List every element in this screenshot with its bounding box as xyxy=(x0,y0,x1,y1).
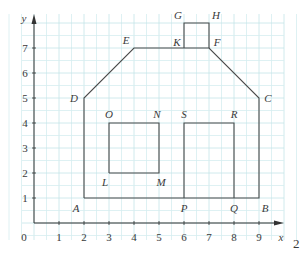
y-tick-label: 5 xyxy=(22,92,28,104)
x-axis-arrow-icon xyxy=(274,221,284,226)
y-tick-label: 2 xyxy=(22,167,28,179)
point-label-o: O xyxy=(105,108,113,120)
origin-label: 0 xyxy=(21,231,27,243)
y-tick-label: 3 xyxy=(22,142,28,154)
y-axis-label: y xyxy=(21,12,27,24)
point-labels: ABCDEFGHKLMNOPQRS xyxy=(69,9,272,214)
x-tick-label: 1 xyxy=(56,231,62,243)
point-label-n: N xyxy=(152,108,161,120)
point-label-c: C xyxy=(264,92,272,104)
y-tick-label: 6 xyxy=(22,67,28,79)
point-label-q: Q xyxy=(230,202,238,214)
x-tick-label: 7 xyxy=(206,231,212,243)
point-label-f: F xyxy=(213,36,221,48)
point-label-h: H xyxy=(211,9,221,21)
point-label-d: D xyxy=(69,92,78,104)
x-axis-label: x xyxy=(278,231,284,243)
x-tick-label: 5 xyxy=(156,231,162,243)
y-tick-label: 7 xyxy=(22,42,28,54)
x-tick-label: 3 xyxy=(106,231,112,243)
axes: 12345678912345670xy xyxy=(21,12,284,243)
x-tick-label: 6 xyxy=(181,231,187,243)
y-axis-arrow-icon xyxy=(32,14,37,24)
page-number: 2 xyxy=(293,236,300,252)
point-label-p: P xyxy=(180,202,188,214)
point-label-k: K xyxy=(172,36,181,48)
x-tick-label: 8 xyxy=(231,231,237,243)
point-label-b: B xyxy=(262,202,269,214)
x-tick-label: 2 xyxy=(81,231,87,243)
x-tick-label: 4 xyxy=(131,231,137,243)
point-label-r: R xyxy=(230,108,238,120)
point-label-l: L xyxy=(101,176,108,188)
coordinate-diagram: 12345678912345670xy ABCDEFGHKLMNOPQRS 2 xyxy=(0,0,304,257)
point-label-s: S xyxy=(181,108,187,120)
y-tick-label: 1 xyxy=(22,192,28,204)
point-label-g: G xyxy=(174,9,182,21)
point-label-m: M xyxy=(155,176,166,188)
point-label-a: A xyxy=(72,202,80,214)
point-label-e: E xyxy=(122,34,130,46)
x-tick-label: 9 xyxy=(256,231,262,243)
y-tick-label: 4 xyxy=(22,117,28,129)
